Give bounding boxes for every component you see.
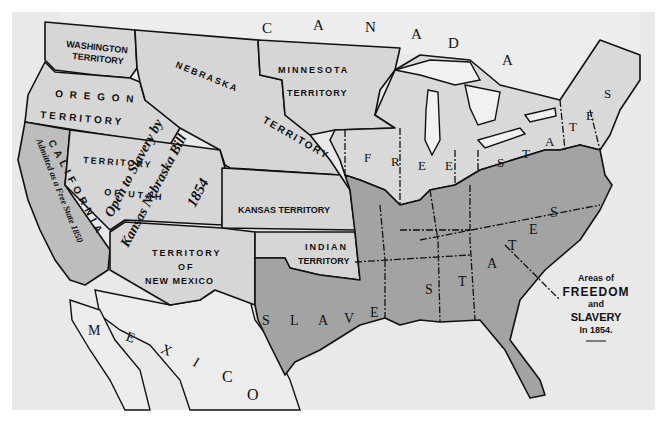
- svg-text:In 1854.: In 1854.: [579, 325, 612, 335]
- svg-text:M: M: [88, 323, 101, 338]
- map-canvas: C A N A D A M E X I C O WASHINGTON TERRI…: [0, 0, 668, 422]
- svg-text:R: R: [391, 154, 400, 169]
- svg-text:S: S: [604, 86, 611, 101]
- svg-text:A: A: [487, 256, 498, 271]
- svg-text:INDIAN: INDIAN: [305, 242, 348, 252]
- svg-text:FREEDOM: FREEDOM: [563, 285, 630, 299]
- lake-michigan: [425, 90, 440, 155]
- svg-text:A: A: [545, 134, 555, 149]
- svg-text:O: O: [247, 386, 259, 403]
- svg-text:E: E: [445, 158, 453, 173]
- svg-text:T: T: [569, 119, 577, 134]
- svg-text:and: and: [588, 299, 604, 309]
- label-kansas-territory: KANSAS TERRITORY: [238, 205, 330, 215]
- svg-text:TERRITORY: TERRITORY: [287, 88, 348, 98]
- svg-text:E: E: [586, 108, 594, 123]
- svg-text:Areas of: Areas of: [578, 273, 615, 283]
- svg-text:A: A: [313, 17, 324, 33]
- region-kansas-territory: [222, 168, 355, 230]
- svg-text:T: T: [522, 146, 530, 161]
- svg-text:T: T: [458, 274, 467, 289]
- svg-text:C: C: [262, 20, 272, 36]
- svg-text:S: S: [497, 155, 504, 170]
- svg-text:C: C: [222, 368, 233, 385]
- svg-text:A: A: [411, 26, 422, 42]
- svg-text:E: E: [418, 158, 426, 173]
- svg-text:S: S: [550, 205, 558, 220]
- svg-text:MINNESOTA: MINNESOTA: [278, 65, 349, 75]
- svg-text:A: A: [502, 52, 513, 68]
- svg-text:A: A: [318, 313, 329, 328]
- svg-text:V: V: [344, 311, 354, 326]
- svg-text:N: N: [365, 19, 376, 35]
- svg-text:E: E: [370, 305, 379, 320]
- svg-text:D: D: [448, 35, 459, 51]
- svg-text:F: F: [364, 150, 371, 165]
- svg-text:NEW MEXICO: NEW MEXICO: [145, 276, 214, 286]
- svg-text:E: E: [529, 222, 538, 237]
- svg-text:TERRITORY: TERRITORY: [298, 256, 350, 266]
- svg-text:TERRITORY: TERRITORY: [152, 248, 222, 258]
- svg-text:L: L: [290, 313, 299, 328]
- svg-text:OF: OF: [178, 262, 195, 272]
- svg-text:T: T: [508, 238, 517, 253]
- svg-text:S: S: [262, 313, 270, 328]
- svg-text:S: S: [425, 282, 433, 297]
- svg-text:SLAVERY: SLAVERY: [571, 311, 622, 323]
